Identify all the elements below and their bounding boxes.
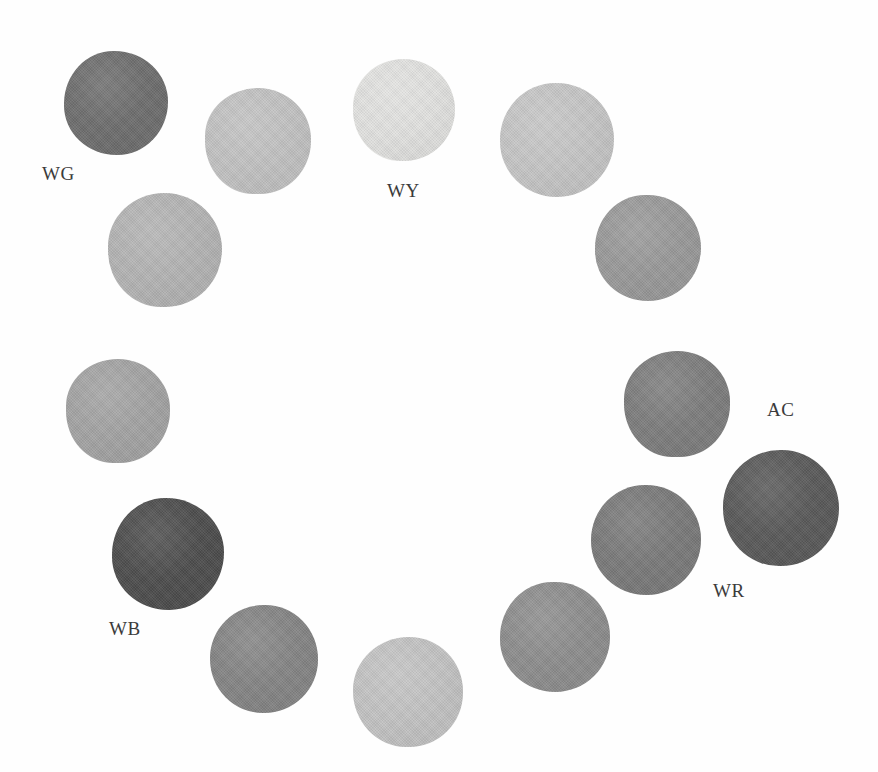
swatch-label-ac: AC (767, 400, 795, 419)
color-swatch-s14 (108, 193, 222, 307)
color-swatch-s11 (210, 605, 318, 713)
color-swatch-s4 (500, 83, 614, 197)
color-swatch-wb (112, 498, 224, 610)
swatch-label-wg: WG (42, 164, 75, 183)
color-swatch-wy (353, 59, 455, 161)
color-swatch-wr (591, 485, 701, 595)
swatch-shading (595, 195, 701, 301)
swatch-label-wr: WR (713, 581, 745, 600)
swatch-shading (500, 83, 614, 197)
swatch-shading (353, 59, 455, 161)
swatch-shading (108, 193, 222, 307)
swatch-shading (353, 637, 463, 747)
swatch-label-wy: WY (387, 181, 420, 200)
swatch-shading (112, 498, 224, 610)
color-swatch-ac (624, 351, 730, 457)
color-swatch-s5 (595, 195, 701, 301)
color-swatch-wg (64, 51, 168, 155)
color-swatch-s10 (353, 637, 463, 747)
swatch-shading (210, 605, 318, 713)
swatch-ring-figure: WGWYACWRWB (0, 0, 878, 772)
swatch-shading (500, 582, 610, 692)
swatch-label-wb: WB (109, 619, 141, 638)
swatch-shading (624, 351, 730, 457)
swatch-shading (66, 359, 170, 463)
swatch-shading (723, 450, 839, 566)
color-swatch-s7 (723, 450, 839, 566)
color-swatch-s2 (205, 88, 311, 194)
swatch-shading (591, 485, 701, 595)
color-swatch-s9 (500, 582, 610, 692)
color-swatch-s13 (66, 359, 170, 463)
swatch-shading (64, 51, 168, 155)
swatch-shading (205, 88, 311, 194)
